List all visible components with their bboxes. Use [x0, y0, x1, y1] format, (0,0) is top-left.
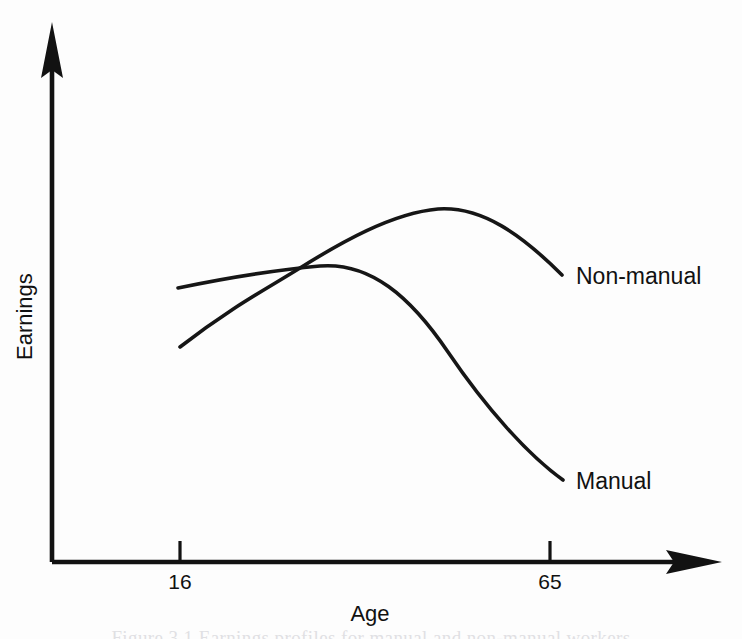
figure-container: 16 65 Age Earnings Non-manual Manual Fig…: [0, 0, 742, 639]
x-tick-label-65: 65: [538, 570, 561, 593]
y-axis-group: [41, 22, 63, 562]
series-label-non-manual: Non-manual: [576, 263, 701, 289]
x-axis-arrow-icon: [666, 550, 722, 574]
y-axis-arrow-icon: [41, 22, 63, 78]
y-axis-title: Earnings: [12, 273, 37, 360]
age-earnings-chart: 16 65 Age Earnings Non-manual Manual: [0, 0, 742, 639]
curve-manual: [178, 266, 563, 480]
x-tick-marks: [180, 541, 550, 560]
x-axis-title: Age: [350, 601, 389, 626]
series-label-manual: Manual: [576, 468, 651, 494]
x-tick-label-16: 16: [168, 570, 191, 593]
x-axis-group: [52, 550, 722, 574]
